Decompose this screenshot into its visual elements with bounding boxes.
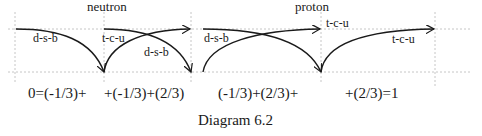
neutron-dsb-label-left: d-s-b (33, 32, 58, 44)
diagram-caption: Diagram 6.2 (198, 113, 273, 128)
neutron-title: neutron (87, 0, 127, 13)
equation-term-2: +(-1/3)+(2/3) (104, 86, 184, 101)
equation-term-3: (-1/3)+(2/3)+ (218, 86, 298, 101)
quark-charge-diagram: neutron proton d-s-b t-c-u d-s-b d-s-b t… (0, 0, 482, 136)
neutron-tcu-label: t-c-u (102, 32, 125, 44)
neutron-dsb-label-right: d-s-b (144, 46, 169, 58)
proton-tcu-label-top: t-c-u (326, 17, 349, 29)
grid-lines (8, 12, 470, 86)
equation-term-1: 0=(-1/3)+ (28, 86, 87, 101)
neutron-dsb-curve-left (16, 29, 104, 72)
proton-tcu-curve-right (321, 29, 434, 72)
proton-tcu-label-right: t-c-u (392, 33, 415, 45)
equation-term-4: +(2/3)=1 (345, 86, 399, 101)
proton-title: proton (295, 0, 329, 13)
proton-dsb-label: d-s-b (204, 32, 229, 44)
